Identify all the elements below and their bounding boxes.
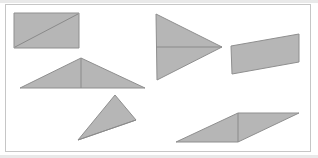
figure-canvas [0,0,318,158]
geometric-shapes-figure [0,0,318,158]
rectangle-with-diagonal-crease [14,13,79,48]
edge-speck-top-left [0,0,318,3]
edge-speck-bottom [0,155,318,158]
